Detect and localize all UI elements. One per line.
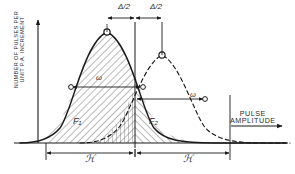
x-axis-label-line2: AMPLITUDE [230, 117, 276, 124]
omega-right-end-marker [203, 97, 208, 102]
omega-left-start-marker [69, 85, 74, 90]
y-axis-label: NUMBER OF PULSES PER UNIT P.A. INCREMENT [14, 0, 25, 106]
span-right-label: ℋ [183, 154, 193, 164]
region-F2-hatch [135, 0, 215, 143]
omega-left-end-marker [141, 85, 146, 90]
x-axis-label: PULSE AMPLITUDE [230, 110, 276, 124]
region-F2-label: F₂ [149, 117, 158, 126]
span-left-label: ℋ [85, 154, 95, 164]
diagram-canvas [0, 0, 295, 174]
omega-right-label: ω [190, 91, 196, 99]
y-axis-label-line2: UNIT P.A. INCREMENT [20, 0, 26, 106]
delta-half-left-label: Δ/2 [118, 3, 130, 11]
omega-left-label: ω [96, 74, 102, 82]
delta-half-right-label: Δ/2 [150, 3, 162, 11]
region-F1-label: F₁ [73, 117, 81, 126]
pulse-height-distribution-figure: NUMBER OF PULSES PER UNIT P.A. INCREMENT… [0, 0, 295, 174]
